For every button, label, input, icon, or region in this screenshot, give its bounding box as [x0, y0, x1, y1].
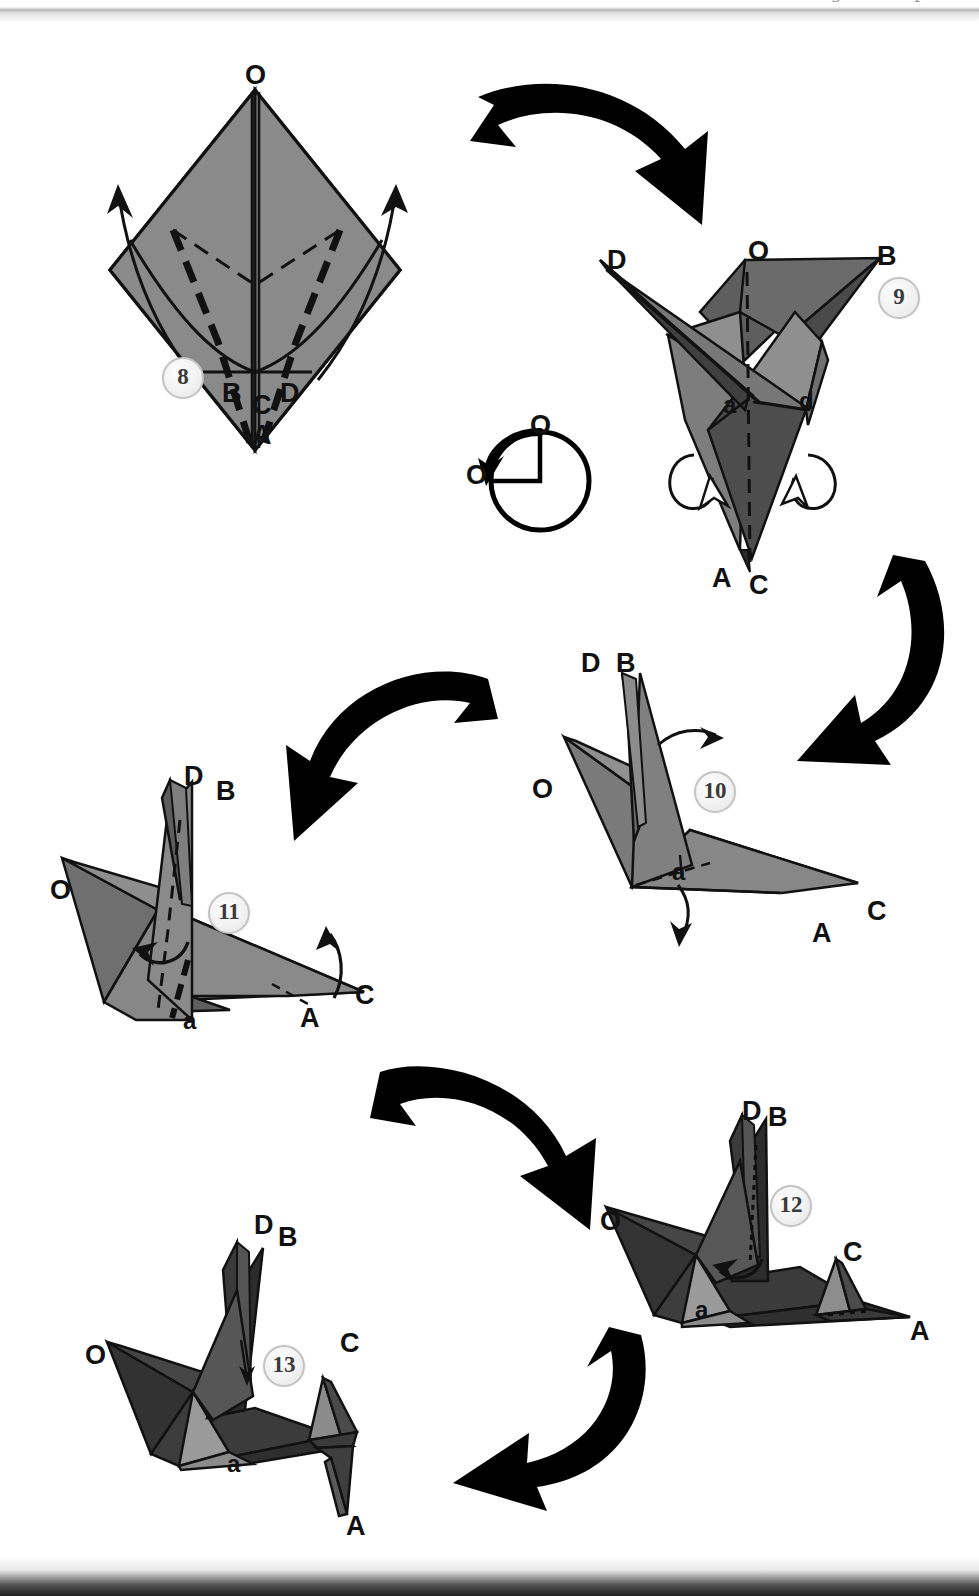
step-11-label-a: a	[183, 1009, 196, 1033]
step-13-label-C: C	[340, 1330, 360, 1357]
step-badge-13: 13	[263, 1345, 305, 1387]
page-bottom-shadow	[0, 1556, 979, 1596]
step-12-label-O: O	[600, 1208, 621, 1235]
step-10-label-a: a	[672, 860, 685, 884]
step-13-label-D: D	[254, 1212, 274, 1239]
step-badge-13-number: 13	[273, 1352, 296, 1378]
figure-step-13	[95, 1230, 395, 1530]
step-11-label-C: C	[355, 982, 375, 1009]
paper-shape-step-12	[606, 1115, 910, 1327]
step-badge-10: 10	[694, 771, 736, 813]
step-badge-10-number: 10	[704, 778, 727, 804]
step-10-label-O: O	[532, 776, 553, 803]
step-12-label-A: A	[910, 1318, 930, 1345]
step-13-label-A: A	[346, 1513, 366, 1540]
step-8-label-C: C	[252, 392, 272, 419]
step-12-label-D: D	[742, 1098, 762, 1125]
origami-diagram-page: 3 1	[0, 0, 979, 1596]
step-8-label-B: B	[222, 380, 242, 407]
step-8-label-A: A	[252, 422, 272, 449]
step-12-label-C: C	[843, 1239, 863, 1266]
paper-shape-step-9	[600, 258, 880, 572]
step-badge-8: 8	[162, 357, 204, 399]
step-badge-11-number: 11	[218, 899, 240, 925]
figure-step-11	[40, 770, 370, 1060]
step-10-label-B: B	[616, 650, 636, 677]
flow-arrow-8-to-9	[470, 75, 730, 235]
step-badge-9-number: 9	[893, 284, 905, 310]
figure-step-9	[590, 250, 890, 580]
step-9-label-a: a	[723, 393, 736, 417]
step-13-label-O: O	[85, 1342, 106, 1369]
step-10-label-A: A	[812, 920, 832, 947]
step-8-label-D: D	[280, 380, 300, 407]
step-badge-12-number: 12	[780, 1192, 803, 1218]
flow-arrow-11-to-12	[370, 1060, 620, 1240]
step-badge-9: 9	[878, 277, 920, 319]
step-9-label-O: O	[748, 238, 769, 265]
step-10-label-D: D	[581, 650, 601, 677]
flow-arrow-12-to-13	[405, 1325, 655, 1505]
step-badge-11: 11	[208, 892, 250, 934]
step-11-label-B: B	[216, 778, 236, 805]
step-12-label-a: a	[695, 1298, 708, 1322]
step-8-label-O: O	[245, 62, 266, 89]
step-12-label-B: B	[768, 1104, 788, 1131]
step-11-label-O: O	[50, 877, 71, 904]
step-13-label-a: a	[227, 1452, 240, 1476]
step-11-label-D: D	[184, 763, 204, 790]
step-9-label-A: A	[712, 565, 732, 592]
step-9-label-D: D	[607, 247, 627, 274]
step-9-label-d: d	[799, 389, 814, 413]
step-9-label-B: B	[877, 243, 897, 270]
page-header-bleed-text: 3 1	[832, 0, 955, 7]
rotate-symbol-label-top: O	[530, 412, 551, 439]
step-11-label-A: A	[300, 1005, 320, 1032]
step-10-label-C: C	[867, 898, 887, 925]
step-badge-12: 12	[770, 1185, 812, 1227]
step-13-label-B: B	[278, 1224, 298, 1251]
figure-step-12	[590, 1105, 930, 1345]
step-badge-8-number: 8	[177, 364, 189, 390]
rotate-symbol-label-left: O	[466, 462, 487, 489]
